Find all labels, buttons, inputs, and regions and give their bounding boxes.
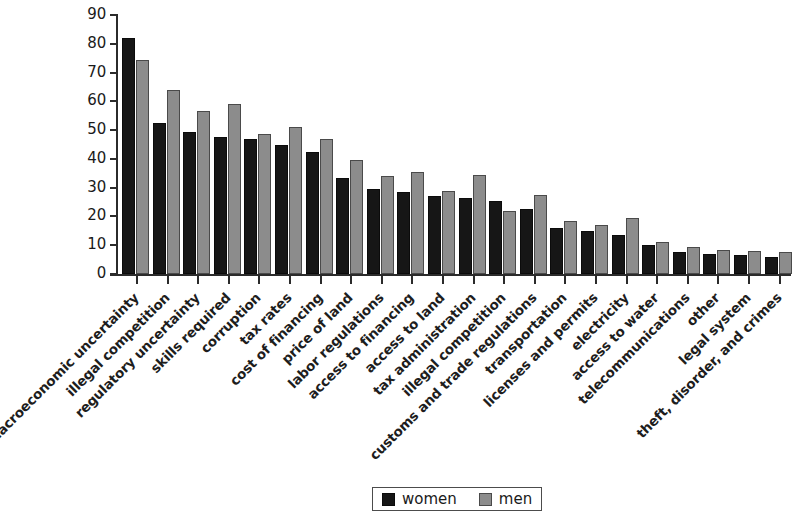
- bar-women: [397, 192, 410, 274]
- x-tick: [564, 276, 566, 284]
- y-tick-label-wrap: 90: [60, 7, 106, 22]
- bar-men: [320, 139, 333, 274]
- legend-label-women: women: [402, 492, 457, 507]
- bar-women: [612, 235, 625, 274]
- bar-men: [748, 251, 761, 274]
- x-tick: [717, 276, 719, 284]
- y-tick-label-wrap: 60: [60, 93, 106, 108]
- bar-women: [703, 254, 716, 274]
- x-axis-line: [110, 274, 791, 276]
- plot-area: [117, 15, 789, 274]
- x-tick: [687, 276, 689, 284]
- bar-chart: 0102030405060708090 macroeconomic uncert…: [0, 0, 801, 516]
- x-tick: [167, 276, 169, 284]
- x-tick: [503, 276, 505, 284]
- bar-men: [656, 242, 669, 274]
- bar-men: [258, 134, 271, 274]
- gray-square-swatch-icon: [479, 493, 492, 506]
- y-tick-label-wrap: 40: [60, 151, 106, 166]
- bar-women: [581, 231, 594, 274]
- x-tick: [228, 276, 230, 284]
- x-tick: [779, 276, 781, 284]
- bar-men: [779, 252, 792, 274]
- bar-men: [411, 172, 424, 274]
- bar-men: [197, 111, 210, 274]
- bar-men: [381, 176, 394, 274]
- y-tick-40: [110, 158, 117, 160]
- bar-women: [673, 252, 686, 274]
- bar-women: [428, 196, 441, 274]
- bar-women: [642, 245, 655, 274]
- x-tick: [626, 276, 628, 284]
- y-tick-label: 10: [66, 237, 106, 252]
- x-tick: [473, 276, 475, 284]
- bar-men: [503, 211, 516, 274]
- y-tick-60: [110, 100, 117, 102]
- y-tick-30: [110, 187, 117, 189]
- y-tick-label: 90: [66, 7, 106, 22]
- bar-men: [473, 175, 486, 274]
- legend-item-women: women: [382, 492, 457, 507]
- x-tick: [442, 276, 444, 284]
- bar-men: [717, 250, 730, 274]
- y-tick-label-wrap: 30: [60, 180, 106, 195]
- bar-men: [350, 160, 363, 274]
- bar-women: [367, 189, 380, 274]
- bar-women: [244, 139, 257, 274]
- bar-women: [459, 198, 472, 274]
- x-tick: [350, 276, 352, 284]
- x-tick: [656, 276, 658, 284]
- x-tick: [289, 276, 291, 284]
- bar-women: [734, 255, 747, 274]
- y-tick-20: [110, 215, 117, 217]
- bar-women: [306, 152, 319, 274]
- bar-men: [595, 225, 608, 274]
- x-tick: [411, 276, 413, 284]
- y-tick-label-wrap: 70: [60, 65, 106, 80]
- y-tick-70: [110, 72, 117, 74]
- legend-label-men: men: [499, 492, 532, 507]
- y-tick-90: [110, 14, 117, 16]
- bar-women: [275, 145, 288, 275]
- bar-women: [214, 137, 227, 274]
- x-tick: [320, 276, 322, 284]
- y-tick-label: 40: [66, 151, 106, 166]
- bar-men: [534, 195, 547, 274]
- bar-women: [153, 123, 166, 274]
- y-tick-label: 20: [66, 208, 106, 223]
- y-tick-80: [110, 43, 117, 45]
- y-tick-label: 0: [66, 266, 106, 281]
- bar-women: [550, 228, 563, 274]
- bar-women: [765, 257, 778, 274]
- x-tick: [197, 276, 199, 284]
- y-tick-label: 30: [66, 180, 106, 195]
- bar-men: [687, 247, 700, 274]
- y-tick-label: 70: [66, 65, 106, 80]
- bar-women: [122, 38, 135, 274]
- bar-men: [228, 104, 241, 274]
- y-tick-label-wrap: 10: [60, 237, 106, 252]
- y-tick-0: [110, 273, 117, 275]
- y-tick-10: [110, 244, 117, 246]
- bar-men: [564, 221, 577, 274]
- bar-men: [626, 218, 639, 274]
- y-tick-label: 50: [66, 122, 106, 137]
- x-tick: [258, 276, 260, 284]
- bar-men: [289, 127, 302, 274]
- x-tick: [136, 276, 138, 284]
- x-tick: [595, 276, 597, 284]
- bar-women: [336, 178, 349, 274]
- bar-women: [520, 209, 533, 274]
- y-tick-label: 80: [66, 36, 106, 51]
- x-tick: [748, 276, 750, 284]
- bar-men: [167, 90, 180, 274]
- y-tick-label: 60: [66, 93, 106, 108]
- y-tick-label-wrap: 0: [60, 266, 106, 281]
- bar-men: [442, 191, 455, 274]
- x-tick: [381, 276, 383, 284]
- bar-men: [136, 60, 149, 274]
- y-tick-50: [110, 129, 117, 131]
- black-square-swatch-icon: [382, 493, 395, 506]
- y-tick-label-wrap: 20: [60, 208, 106, 223]
- chart-legend: women men: [372, 487, 542, 511]
